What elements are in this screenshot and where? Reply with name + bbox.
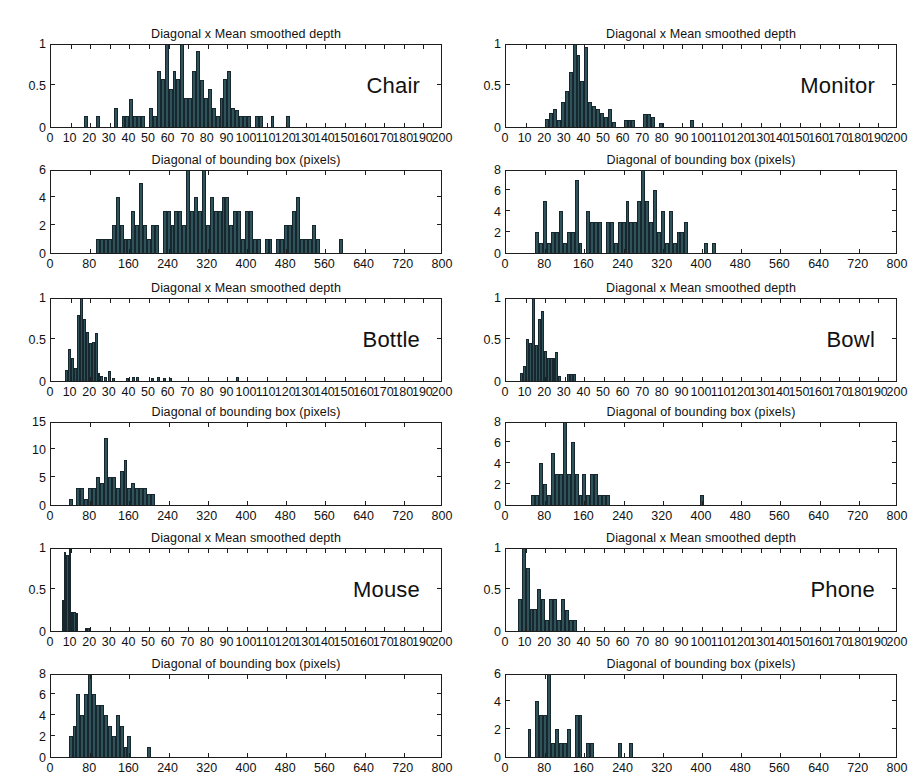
- x-tick-mark: [820, 249, 821, 253]
- x-tick-mark: [423, 123, 424, 127]
- x-axis-tick-label: 190: [867, 635, 888, 649]
- x-axis-tick-label: 0: [47, 131, 54, 145]
- x-tick-mark: [169, 549, 170, 553]
- x-tick-mark: [110, 377, 111, 381]
- x-tick-mark: [820, 675, 821, 679]
- x-tick-mark: [384, 299, 385, 303]
- x-tick-mark: [643, 627, 644, 631]
- y-axis-tick-label: 0: [457, 375, 501, 389]
- x-axis-tick-label: 480: [275, 761, 296, 775]
- histogram-bar: [69, 499, 73, 505]
- x-tick-mark: [859, 45, 860, 49]
- x-axis-tick-label: 80: [200, 385, 214, 399]
- bar-series-mouse-bbox: [51, 675, 441, 757]
- x-tick-mark: [90, 501, 91, 505]
- x-axis-tick-label: 10: [63, 131, 77, 145]
- x-tick-mark: [208, 299, 209, 303]
- chart-title-bowl-bbox: Diagonal of bounding box (pixels): [505, 405, 897, 419]
- y-tick-mark: [51, 84, 55, 85]
- x-tick-mark: [267, 627, 268, 631]
- x-tick-mark: [584, 549, 585, 553]
- x-axis-tick-label: 720: [847, 257, 868, 271]
- x-axis-tick-label: 60: [161, 385, 175, 399]
- histogram-bar: [618, 743, 622, 757]
- chart-title-monitor-bbox: Diagonal of bounding box (pixels): [505, 153, 897, 167]
- x-tick-mark: [780, 675, 781, 679]
- x-tick-mark: [624, 377, 625, 381]
- x-tick-mark: [423, 549, 424, 553]
- x-axis-tick-label: 20: [82, 385, 96, 399]
- x-axis-tick-label: 150: [789, 131, 810, 145]
- histogram-bar: [684, 222, 688, 254]
- x-tick-mark: [663, 171, 664, 175]
- x-tick-mark: [722, 377, 723, 381]
- x-tick-mark: [741, 627, 742, 631]
- x-tick-mark: [878, 627, 879, 631]
- x-axis-tick-label: 100: [236, 385, 257, 399]
- x-tick-mark: [859, 753, 860, 757]
- histogram-bar: [579, 715, 583, 757]
- x-axis-tick-label: 100: [691, 385, 712, 399]
- x-axis-tick-label: 190: [412, 131, 433, 145]
- x-tick-mark: [71, 299, 72, 303]
- x-axis-tick-label: 640: [353, 257, 374, 271]
- x-tick-mark: [702, 299, 703, 303]
- x-tick-mark: [306, 299, 307, 303]
- x-axis-tick-label: 130: [294, 635, 315, 649]
- x-axis-tick-label: 20: [82, 635, 96, 649]
- x-tick-mark: [325, 249, 326, 253]
- x-axis-tick-label: 480: [730, 761, 751, 775]
- x-tick-mark: [247, 45, 248, 49]
- x-axis-tick-label: 10: [518, 131, 532, 145]
- x-tick-mark: [90, 377, 91, 381]
- x-tick-mark: [90, 753, 91, 757]
- x-tick-mark: [71, 377, 72, 381]
- x-tick-mark: [247, 299, 248, 303]
- x-tick-mark: [286, 549, 287, 553]
- x-tick-mark: [169, 171, 170, 175]
- x-tick-mark: [565, 377, 566, 381]
- x-tick-mark: [584, 123, 585, 127]
- x-axis-tick-label: 160: [808, 635, 829, 649]
- x-axis-tick-label: 170: [373, 635, 394, 649]
- x-axis-tick-label: 560: [314, 761, 335, 775]
- x-tick-mark: [663, 377, 664, 381]
- x-tick-mark: [423, 627, 424, 631]
- x-tick-mark: [624, 123, 625, 127]
- x-tick-mark: [286, 299, 287, 303]
- x-axis-tick-label: 140: [314, 131, 335, 145]
- x-tick-mark: [325, 45, 326, 49]
- x-tick-mark: [325, 171, 326, 175]
- x-tick-mark: [306, 549, 307, 553]
- y-axis-tick-label: 1: [457, 291, 501, 305]
- x-axis-tick-label: 200: [432, 385, 453, 399]
- x-tick-mark: [423, 299, 424, 303]
- x-axis-tick-label: 80: [537, 509, 551, 523]
- y-tick-mark: [51, 196, 55, 197]
- x-axis-tick-label: 560: [314, 257, 335, 271]
- x-tick-mark: [267, 45, 268, 49]
- histogram-bar: [147, 747, 151, 758]
- x-axis-tick-label: 110: [256, 131, 276, 145]
- x-axis-tick-label: 60: [161, 635, 175, 649]
- x-tick-mark: [702, 249, 703, 253]
- x-axis-tick-label: 720: [392, 257, 413, 271]
- chart-panel-phone-depth: Diagonal x Mean smoothed depth00.5101020…: [505, 548, 897, 632]
- x-axis-tick-label: 80: [537, 761, 551, 775]
- x-axis-tick-label: 160: [573, 257, 594, 271]
- x-tick-mark: [365, 675, 366, 679]
- x-tick-mark: [545, 171, 546, 175]
- y-tick-mark: [437, 84, 441, 85]
- x-tick-mark: [859, 501, 860, 505]
- x-tick-mark: [365, 249, 366, 253]
- chart-panel-bowl-depth: Diagonal x Mean smoothed depth00.5101020…: [505, 298, 897, 382]
- class-label-bottle: Bottle: [363, 327, 420, 353]
- x-tick-mark: [169, 501, 170, 505]
- x-axis-tick-label: 110: [256, 635, 276, 649]
- x-axis-tick-label: 60: [616, 635, 630, 649]
- x-axis-tick-label: 170: [828, 131, 849, 145]
- x-tick-mark: [839, 45, 840, 49]
- x-axis-tick-label: 640: [808, 509, 829, 523]
- x-axis-tick-label: 80: [655, 131, 669, 145]
- x-tick-mark: [643, 377, 644, 381]
